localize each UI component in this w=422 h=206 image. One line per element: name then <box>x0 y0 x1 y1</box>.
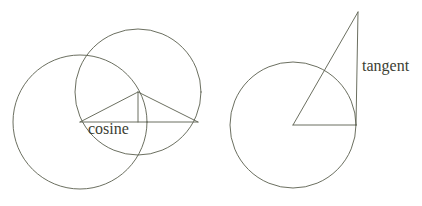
hypotenuse-line <box>293 12 358 125</box>
tangent-label: tangent <box>362 57 410 75</box>
left-diagram-group: cosine <box>13 29 201 189</box>
cosine-label: cosine <box>88 120 129 137</box>
right-diagram-group: tangent <box>230 12 410 188</box>
tangent-line <box>356 12 358 125</box>
triangle-left-side <box>80 92 138 122</box>
figure-root: cosine tangent <box>0 0 422 206</box>
diagram-canvas: cosine tangent <box>0 0 422 206</box>
